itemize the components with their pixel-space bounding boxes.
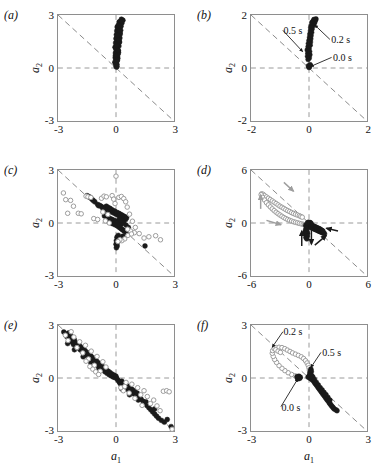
plot-area: 20-2-202a20.5 s0.2 s0.0 s xyxy=(250,14,368,122)
panel-f: (f)30-3-303a2a10.2 s0.5 s0.0 s xyxy=(193,310,385,466)
panel-letter-label: (b) xyxy=(197,8,211,23)
x-tick-right: 3 xyxy=(173,124,179,135)
y-axis-label: a2 xyxy=(221,218,237,228)
x-tick-right: 3 xyxy=(366,434,372,445)
x-tick-left: -3 xyxy=(54,434,63,445)
plot-canvas xyxy=(251,15,367,121)
plot-canvas xyxy=(58,325,174,431)
x-axis-label: a1 xyxy=(304,449,314,465)
x-tick-zero: 0 xyxy=(113,434,119,445)
series-filled xyxy=(112,17,125,70)
data-point xyxy=(115,58,120,63)
y-tick-zero: 0 xyxy=(242,218,248,229)
y-tick-bottom: -6 xyxy=(238,270,247,281)
x-tick-zero: 0 xyxy=(113,124,119,135)
series-trajectory xyxy=(305,17,319,70)
data-point xyxy=(145,394,150,399)
data-point xyxy=(95,217,100,222)
data-point xyxy=(66,338,71,343)
data-point xyxy=(115,43,120,48)
panel-d: (d)60-6-606a2 xyxy=(193,155,385,311)
annotation-leader-arrow xyxy=(315,25,330,39)
y-tick-bottom: -3 xyxy=(45,270,54,281)
data-point xyxy=(335,408,340,413)
data-point xyxy=(116,38,121,43)
y-tick-top: 3 xyxy=(49,165,55,176)
data-point xyxy=(95,354,100,359)
y-tick-bottom: -3 xyxy=(45,115,54,126)
data-point xyxy=(65,211,70,216)
data-point xyxy=(101,210,106,215)
data-point xyxy=(116,239,121,244)
y-tick-zero: 0 xyxy=(242,63,248,74)
data-point xyxy=(115,33,120,38)
data-point xyxy=(140,403,145,408)
data-point xyxy=(89,349,94,354)
data-point xyxy=(130,219,135,224)
direction-arrow xyxy=(315,235,327,245)
x-tick-right: 6 xyxy=(366,279,372,290)
panel-letter-label: (d) xyxy=(197,163,211,178)
time-annotation: 0.2 s xyxy=(283,327,302,337)
data-point xyxy=(122,384,127,389)
y-axis-label: a2 xyxy=(28,218,44,228)
data-point xyxy=(137,231,142,236)
plot-canvas xyxy=(58,170,174,276)
y-axis-label: a2 xyxy=(221,373,237,383)
panel-letter-label: (a) xyxy=(4,8,18,23)
y-axis-label: a2 xyxy=(28,373,44,383)
y-tick-top: 3 xyxy=(242,320,248,331)
y-tick-bottom: -2 xyxy=(238,115,247,126)
panel-a: (a)30-3-303a2 xyxy=(0,0,192,156)
data-point xyxy=(114,62,119,67)
data-point xyxy=(304,236,309,241)
data-point xyxy=(71,204,76,209)
data-point xyxy=(106,212,111,217)
x-tick-zero: 0 xyxy=(113,279,119,290)
data-point xyxy=(170,427,175,432)
data-point xyxy=(129,232,134,237)
y-tick-zero: 0 xyxy=(242,373,248,384)
data-point xyxy=(305,220,310,225)
y-tick-zero: 0 xyxy=(49,63,55,74)
y-tick-top: 3 xyxy=(49,10,55,21)
data-point xyxy=(127,212,132,217)
data-point xyxy=(63,333,68,338)
direction-arrow xyxy=(284,182,294,191)
plot-area: 30-3-303a2 xyxy=(57,14,175,122)
data-point xyxy=(133,225,138,230)
data-point xyxy=(104,365,109,370)
time-annotation: 0.0 s xyxy=(281,403,300,413)
x-tick-left: -6 xyxy=(247,279,256,290)
plot-area: 60-6-606a2 xyxy=(250,169,368,277)
data-point xyxy=(165,417,170,422)
data-point xyxy=(158,408,163,413)
y-tick-bottom: -3 xyxy=(45,425,54,436)
data-point xyxy=(113,201,118,206)
y-tick-top: 3 xyxy=(49,320,55,331)
data-point xyxy=(113,53,118,58)
y-tick-zero: 0 xyxy=(49,373,55,384)
plot-area: 30-3-303a2 xyxy=(57,169,175,277)
data-point xyxy=(308,62,313,67)
x-tick-left: -3 xyxy=(54,279,63,290)
x-tick-right: 2 xyxy=(366,124,372,135)
x-tick-right: 3 xyxy=(173,434,179,445)
y-tick-top: 6 xyxy=(242,165,248,176)
data-point xyxy=(123,200,128,205)
data-point xyxy=(278,350,283,355)
plot-canvas xyxy=(58,15,174,121)
data-point xyxy=(114,174,119,179)
x-tick-zero: 0 xyxy=(306,124,312,135)
data-point xyxy=(117,28,122,33)
data-point xyxy=(111,197,116,202)
x-tick-left: -3 xyxy=(247,434,256,445)
data-point xyxy=(96,203,101,208)
y-tick-bottom: -3 xyxy=(238,425,247,436)
x-tick-zero: 0 xyxy=(306,434,312,445)
time-annotation: 0.0 s xyxy=(333,53,352,63)
data-point xyxy=(72,335,77,340)
data-point xyxy=(167,390,172,395)
panel-b: (b)20-2-202a20.5 s0.2 s0.0 s xyxy=(193,0,385,156)
annotation-leader-arrow xyxy=(311,352,321,367)
